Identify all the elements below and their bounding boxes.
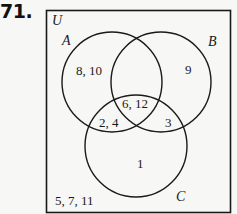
region-b-only: 9 (185, 62, 192, 77)
region-a-b-c: 6, 12 (122, 96, 148, 111)
set-c-label: C (176, 189, 186, 204)
universe-label: U (52, 13, 63, 28)
venn-diagram: U A B C 8, 10 9 6, 12 2, 4 3 1 5, 7, 11 (0, 0, 237, 214)
region-b-c-only: 3 (165, 115, 172, 130)
universe-rectangle (47, 11, 231, 213)
region-c-only: 1 (137, 156, 144, 171)
region-a-c-only: 2, 4 (99, 115, 119, 130)
circle-b (111, 32, 211, 132)
region-a-only: 8, 10 (76, 63, 102, 78)
region-outside: 5, 7, 11 (55, 193, 94, 208)
set-b-label: B (208, 34, 217, 49)
set-a-label: A (61, 33, 71, 48)
